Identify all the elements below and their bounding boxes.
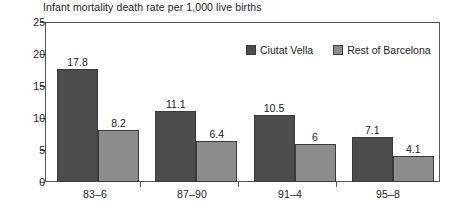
x-tick-label-1: 87–90 <box>177 188 207 200</box>
bar-value-label: 6.4 <box>209 129 224 140</box>
bar: 6.4 <box>196 141 237 182</box>
legend-swatch-icon <box>333 45 343 55</box>
x-axis-separator <box>238 182 239 187</box>
legend-swatch-icon <box>246 45 256 55</box>
bar-value-label: 11.1 <box>166 99 186 110</box>
legend-label: Rest of Barcelona <box>347 44 430 56</box>
bar: 7.1 <box>352 137 393 182</box>
infant-mortality-bar-chart: Infant mortality death rate per 1,000 li… <box>0 0 455 207</box>
x-tick-label-0: 83–6 <box>83 188 107 200</box>
bar-value-label: 17.8 <box>67 57 87 68</box>
bar-value-label: 7.1 <box>365 125 380 136</box>
legend-label: Ciutat Vella <box>260 44 313 56</box>
bar: 4.1 <box>393 156 434 182</box>
bar: 6 <box>295 144 336 182</box>
y-tick-label: 5 <box>9 145 45 155</box>
x-tick-label-3: 95–8 <box>376 188 400 200</box>
bar: 8.2 <box>98 130 139 182</box>
y-tick-label: 15 <box>9 81 45 91</box>
x-tick-label-2: 91–4 <box>278 188 302 200</box>
bar-value-label: 10.5 <box>264 103 284 114</box>
bar: 11.1 <box>155 111 196 182</box>
x-axis-separator <box>140 182 141 187</box>
y-tick-label: 25 <box>9 17 45 27</box>
bar: 10.5 <box>254 115 295 182</box>
y-tick-label: 10 <box>9 113 45 123</box>
y-tick-label: 0 <box>9 177 45 187</box>
y-axis: 25 20 15 10 5 0 <box>0 22 45 182</box>
bar-value-label: 8.2 <box>111 118 126 129</box>
bar-value-label: 4.1 <box>406 144 421 155</box>
x-axis-separator <box>336 182 337 187</box>
bar-group: 11.16.4 <box>144 23 242 182</box>
legend-item-rest-of-barcelona: Rest of Barcelona <box>333 44 430 56</box>
bar-value-label: 6 <box>312 132 318 143</box>
legend-item-ciutat-vella: Ciutat Vella <box>246 44 313 56</box>
y-tick-label: 20 <box>9 49 45 59</box>
chart-title: Infant mortality death rate per 1,000 li… <box>43 1 262 14</box>
bar: 17.8 <box>57 69 98 182</box>
chart-legend: Ciutat Vella Rest of Barcelona <box>246 44 431 56</box>
bar-group: 17.88.2 <box>46 23 144 182</box>
